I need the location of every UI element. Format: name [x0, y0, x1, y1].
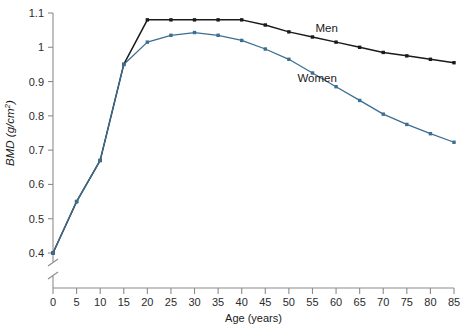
- y-axis-tick-labels: 0.40.50.60.70.80.911.1: [29, 7, 44, 259]
- data-point-marker: [358, 46, 361, 49]
- data-series-group: [51, 18, 455, 255]
- data-point-marker: [287, 30, 290, 33]
- y-tick-label: 0.4: [29, 247, 44, 259]
- y-tick-label: 0.9: [29, 76, 44, 88]
- x-tick-label: 50: [283, 296, 295, 308]
- series-label-women: Women: [297, 72, 336, 84]
- data-point-marker: [240, 18, 243, 21]
- x-tick-label: 45: [259, 296, 271, 308]
- data-point-marker: [405, 123, 408, 126]
- x-tick-label: 80: [424, 296, 436, 308]
- x-tick-label: 60: [330, 296, 342, 308]
- series-line: [53, 33, 454, 253]
- data-point-marker: [75, 200, 78, 203]
- y-tick-label: 1: [38, 41, 44, 53]
- data-point-marker: [405, 54, 408, 57]
- data-point-marker: [452, 141, 455, 144]
- data-point-marker: [169, 18, 172, 21]
- data-point-marker: [382, 112, 385, 115]
- data-point-marker: [429, 58, 432, 61]
- data-point-marker: [51, 251, 54, 254]
- x-tick-label: 65: [354, 296, 366, 308]
- data-point-marker: [287, 58, 290, 61]
- chart-figure: 0.40.50.60.70.80.911.1 05101520253035404…: [0, 0, 470, 331]
- series-men: [51, 18, 455, 255]
- data-point-marker: [193, 31, 196, 34]
- data-point-marker: [193, 18, 196, 21]
- data-point-marker: [240, 39, 243, 42]
- y-tick-label: 0.5: [29, 213, 44, 225]
- series-annotations: MenWomen: [297, 22, 337, 84]
- series-women: [51, 31, 455, 255]
- x-tick-label: 0: [50, 296, 56, 308]
- x-tick-label: 25: [165, 296, 177, 308]
- data-point-marker: [98, 159, 101, 162]
- data-point-marker: [334, 40, 337, 43]
- x-tick-label: 55: [306, 296, 318, 308]
- series-label-men: Men: [315, 22, 337, 34]
- series-line: [53, 20, 454, 253]
- data-point-marker: [146, 40, 149, 43]
- data-point-marker: [264, 47, 267, 50]
- x-tick-label: 20: [141, 296, 153, 308]
- y-axis: 0.40.50.60.70.80.911.1: [29, 7, 58, 288]
- data-point-marker: [122, 63, 125, 66]
- y-axis-title: BMD (g/cm2): [3, 100, 17, 166]
- y-tick-label: 0.8: [29, 110, 44, 122]
- y-tick-label: 0.6: [29, 178, 44, 190]
- data-point-marker: [311, 35, 314, 38]
- data-point-marker: [216, 34, 219, 37]
- data-point-marker: [264, 23, 267, 26]
- data-point-marker: [146, 18, 149, 21]
- data-point-marker: [334, 85, 337, 88]
- x-tick-label: 40: [236, 296, 248, 308]
- bmd-vs-age-line-chart: 0.40.50.60.70.80.911.1 05101520253035404…: [0, 0, 470, 331]
- x-tick-label: 5: [74, 296, 80, 308]
- x-tick-label: 85: [448, 296, 460, 308]
- data-point-marker: [382, 51, 385, 54]
- y-tick-label: 0.7: [29, 144, 44, 156]
- data-point-marker: [169, 34, 172, 37]
- x-tick-label: 30: [188, 296, 200, 308]
- y-axis-break-icon: [48, 259, 58, 279]
- x-axis-ticks: [53, 288, 454, 294]
- data-point-marker: [216, 18, 219, 21]
- data-point-marker: [452, 61, 455, 64]
- x-tick-label: 75: [401, 296, 413, 308]
- y-tick-label: 1.1: [29, 7, 44, 19]
- data-point-marker: [358, 99, 361, 102]
- x-tick-label: 35: [212, 296, 224, 308]
- y-axis-ticks: [48, 13, 53, 253]
- data-point-marker: [429, 132, 432, 135]
- x-tick-label: 15: [118, 296, 130, 308]
- x-tick-label: 70: [377, 296, 389, 308]
- x-axis: 0510152025303540455055606570758085: [50, 288, 460, 308]
- x-tick-label: 10: [94, 296, 106, 308]
- x-axis-tick-labels: 0510152025303540455055606570758085: [50, 296, 460, 308]
- x-axis-title: Age (years): [225, 312, 282, 324]
